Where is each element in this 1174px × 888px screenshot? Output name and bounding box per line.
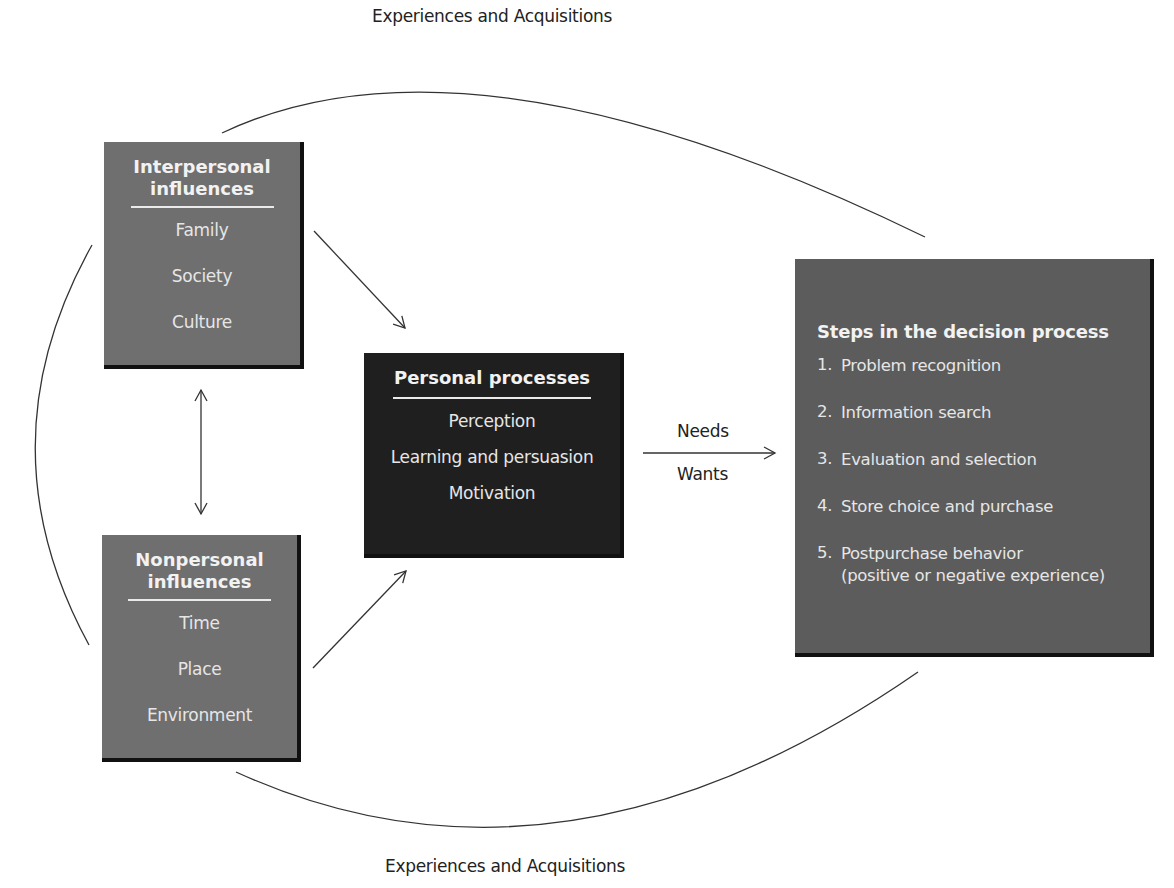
wants-label: Wants: [677, 464, 728, 484]
step-text-detail: (positive or negative experience): [841, 565, 1105, 587]
interpersonal-influences-box: Interpersonal influences Family Society …: [104, 142, 304, 369]
left-cycle-arc: [35, 245, 92, 645]
interpersonal-item: Culture: [104, 312, 300, 332]
step-number: 3.: [817, 449, 841, 471]
top-caption: Experiences and Acquisitions: [372, 6, 612, 26]
decision-process-box: Steps in the decision process 1. Problem…: [795, 259, 1154, 657]
step-text: Store choice and purchase: [841, 496, 1053, 518]
interpersonal-item: Society: [104, 266, 300, 286]
step-number: 4.: [817, 496, 841, 518]
needs-label: Needs: [677, 421, 729, 441]
personal-item: Motivation: [364, 483, 620, 503]
step-text-group: Postpurchase behavior (positive or negat…: [841, 543, 1105, 587]
step-text: Postpurchase behavior: [841, 543, 1105, 565]
decision-step: 4. Store choice and purchase: [817, 496, 1150, 518]
title-divider: [128, 599, 271, 601]
arrow-interpersonal-to-personal: [314, 231, 405, 328]
nonpersonal-influences-box: Nonpersonal influences Time Place Enviro…: [102, 535, 301, 762]
step-number: 2.: [817, 402, 841, 424]
step-text: Information search: [841, 402, 991, 424]
step-number: 1.: [817, 355, 841, 377]
personal-title: Personal processes: [364, 367, 620, 389]
decision-title: Steps in the decision process: [817, 321, 1150, 342]
nonpersonal-item: Place: [102, 659, 297, 679]
interpersonal-title-line1: Interpersonal: [104, 156, 300, 178]
nonpersonal-title-line2: influences: [102, 571, 297, 593]
nonpersonal-item: Time: [102, 613, 297, 633]
decision-step: 5. Postpurchase behavior (positive or ne…: [817, 543, 1150, 587]
decision-step: 1. Problem recognition: [817, 355, 1150, 377]
decision-step: 3. Evaluation and selection: [817, 449, 1150, 471]
nonpersonal-title-line1: Nonpersonal: [102, 549, 297, 571]
bottom-caption: Experiences and Acquisitions: [385, 856, 625, 876]
interpersonal-title-line2: influences: [104, 178, 300, 200]
title-divider: [131, 206, 274, 208]
personal-item: Perception: [364, 411, 620, 431]
arrow-nonpersonal-to-personal: [313, 571, 406, 668]
bottom-cycle-arc: [236, 672, 918, 827]
step-text: Evaluation and selection: [841, 449, 1037, 471]
title-divider: [393, 397, 591, 399]
top-cycle-arc: [222, 92, 925, 237]
interpersonal-item: Family: [104, 220, 300, 240]
personal-processes-box: Personal processes Perception Learning a…: [364, 353, 624, 558]
nonpersonal-item: Environment: [102, 705, 297, 725]
step-text: Problem recognition: [841, 355, 1001, 377]
decision-step: 2. Information search: [817, 402, 1150, 424]
step-number: 5.: [817, 543, 841, 587]
personal-item: Learning and persuasion: [364, 447, 620, 467]
